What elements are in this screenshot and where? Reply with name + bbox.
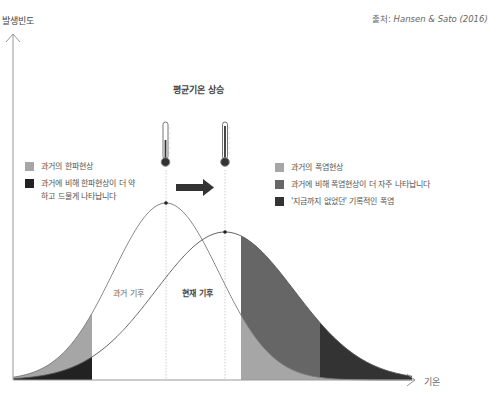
thermometer-icon — [221, 122, 230, 166]
legend-swatch — [275, 197, 284, 206]
cold-legend: 과거의 한파현상 과거에 비해 한파현상이 더 약하고 드물게 나타납니다 — [25, 160, 165, 207]
legend-item: 과거의 폭염현상 — [275, 161, 465, 174]
legend-label: 과거에 비해 폭염현상이 더 자주 나타납니다 — [291, 178, 430, 191]
record-heat-area — [320, 323, 412, 380]
source-prefix: 출처: — [372, 14, 394, 24]
source-citation: 출처: Hansen & Sato (2016) — [372, 12, 488, 24]
legend-item: '지금까지 없었던' 기록적인 폭염 — [275, 195, 465, 208]
past-climate-label: 과거 기후 — [113, 287, 144, 298]
right-arrow-icon — [176, 179, 214, 196]
y-axis-label: 발생빈도 — [2, 14, 34, 27]
legend-item: 과거의 한파현상 — [25, 160, 165, 173]
legend-label: '지금까지 없었던' 기록적인 폭염 — [291, 195, 394, 208]
present-peak-dot — [223, 230, 227, 234]
legend-label: 과거에 비해 한파현상이 더 약하고 드물게 나타납니다 — [41, 177, 141, 203]
x-axis-label: 기온 — [424, 375, 440, 388]
legend-item: 과거에 비해 폭염현상이 더 자주 나타납니다 — [275, 178, 465, 191]
legend-label: 과거의 폭염현상 — [291, 161, 343, 174]
legend-swatch — [275, 180, 284, 189]
diagram-title: 평균기온 상승 — [173, 83, 224, 96]
legend-swatch — [25, 179, 34, 188]
source-text: Hansen & Sato (2016) — [394, 14, 488, 24]
legend-swatch — [25, 162, 34, 171]
shaded-regions — [14, 236, 412, 380]
legend-label: 과거의 한파현상 — [41, 160, 93, 173]
heat-legend: 과거의 폭염현상 과거에 비해 폭염현상이 더 자주 나타납니다 '지금까지 없… — [275, 161, 465, 212]
legend-swatch — [275, 163, 284, 172]
legend-item: 과거에 비해 한파현상이 더 약하고 드물게 나타납니다 — [25, 177, 165, 203]
present-climate-label: 현재 기후 — [182, 287, 213, 298]
